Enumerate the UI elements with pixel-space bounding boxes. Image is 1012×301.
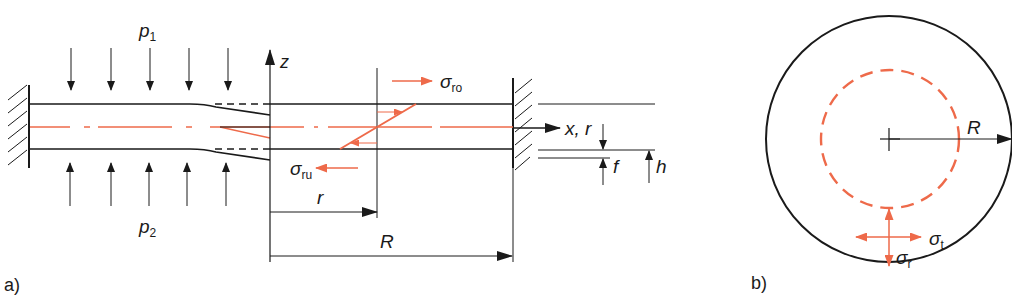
center-line <box>30 127 513 138</box>
stress-radial-label: σr <box>896 247 911 271</box>
panel-a: p1 p2 z x, r σro <box>4 20 667 295</box>
thickness-label: h <box>656 156 667 177</box>
panel-b-label: b) <box>751 273 767 293</box>
radius-label: R <box>967 117 981 138</box>
left-wall-hatch-icon <box>8 85 29 168</box>
right-wall-hatch-icon <box>513 78 532 170</box>
x-axis-label: x, r <box>564 118 592 139</box>
stress-bottom-label: σru <box>290 158 312 182</box>
r-dimension-label: r <box>317 187 324 208</box>
z-axis-label: z <box>279 52 289 72</box>
load-bottom-label: p2 <box>138 216 157 240</box>
top-load-arrows-icon <box>71 48 228 90</box>
bottom-load-arrows-icon <box>70 163 226 206</box>
plate-outline <box>30 104 513 160</box>
panel-a-label: a) <box>4 275 20 295</box>
plate-stress-diagram: p1 p2 z x, r σro <box>0 0 1012 301</box>
R-dimension-label: R <box>380 231 394 252</box>
load-top-label: p1 <box>138 20 157 44</box>
deflection-label: f <box>613 156 620 177</box>
stress-tangential-label: σt <box>929 228 944 252</box>
stress-top-label: σro <box>440 71 462 95</box>
panel-b: R σt σr b) <box>751 16 1012 293</box>
thickness-lines <box>538 104 655 158</box>
